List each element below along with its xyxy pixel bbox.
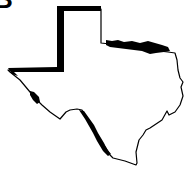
panhandle-border-highlight: [8, 6, 101, 76]
rio-grande-upper-highlight: [30, 91, 40, 104]
rio-grande-lower-highlight: [79, 110, 111, 156]
state-outline: [8, 9, 183, 165]
red-river-highlight: [106, 40, 170, 54]
texas-map: [0, 0, 192, 172]
